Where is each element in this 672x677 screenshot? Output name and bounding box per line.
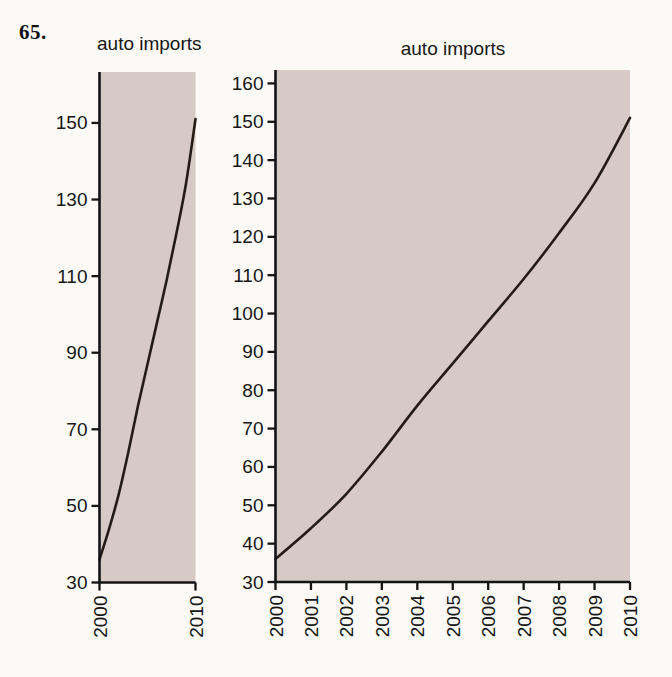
right-x-tick-label: 2005 [443, 595, 464, 637]
left-y-tick-label: 70 [66, 419, 87, 440]
right-y-tick-label: 80 [242, 380, 263, 401]
right-x-tick-label: 2008 [549, 595, 570, 637]
right-y-tick-label: 90 [242, 341, 263, 362]
left-y-tick-label: 130 [56, 189, 88, 210]
left-y-tick-label: 90 [66, 342, 87, 363]
charts-canvas: 3050709011013015020002010304050607080901… [0, 0, 672, 677]
right-y-tick-label: 30 [242, 572, 263, 593]
right-y-tick-label: 130 [232, 188, 264, 209]
right-y-tick-label: 110 [233, 265, 263, 286]
right-y-tick-label: 140 [232, 150, 264, 171]
right-y-tick-label: 50 [242, 495, 263, 516]
right-x-tick-label: 2000 [266, 595, 287, 637]
left-y-tick-label: 30 [66, 572, 87, 593]
left-y-tick-label: 50 [66, 495, 87, 516]
left-x-tick-label: 2010 [186, 596, 207, 638]
right-y-tick-label: 150 [232, 111, 264, 132]
right-chart: 3040506070809010011012013014015016020002… [232, 70, 641, 637]
right-x-tick-label: 2009 [585, 595, 606, 637]
left-plot-area [100, 72, 196, 583]
left-y-tick-label: 150 [56, 112, 88, 133]
right-x-tick-label: 2003 [372, 595, 393, 637]
right-x-tick-label: 2007 [514, 595, 535, 637]
right-x-tick-label: 2004 [407, 595, 428, 638]
left-y-tick-label: 110 [57, 266, 87, 287]
left-x-tick-label: 2000 [90, 596, 111, 638]
textbook-figure-page: 65. auto imports auto imports 3050709011… [0, 0, 672, 677]
right-y-tick-label: 100 [232, 303, 264, 324]
left-chart: 3050709011013015020002010 [56, 72, 207, 638]
right-y-tick-label: 40 [242, 533, 263, 554]
right-x-tick-label: 2002 [336, 595, 357, 637]
right-y-tick-label: 70 [242, 418, 263, 439]
right-y-tick-label: 120 [232, 226, 264, 247]
right-plot-area [276, 70, 631, 582]
right-y-tick-label: 160 [232, 73, 264, 94]
right-x-tick-label: 2006 [478, 595, 499, 637]
right-x-tick-label: 2001 [301, 595, 322, 637]
right-x-tick-label: 2010 [620, 595, 641, 637]
right-y-tick-label: 60 [242, 456, 263, 477]
